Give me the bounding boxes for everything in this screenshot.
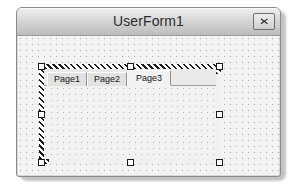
- close-x-icon: ✕: [259, 17, 269, 27]
- window-title: UserForm1: [17, 12, 280, 30]
- resize-handle-bottom-left[interactable]: [38, 159, 45, 166]
- userform-window: UserForm1 ✕ Page1 Page2 Page3: [16, 7, 281, 177]
- resize-handle-top-left[interactable]: [38, 63, 45, 70]
- tab-page1[interactable]: Page1: [47, 72, 87, 86]
- multipage-page-surface[interactable]: [44, 86, 216, 159]
- multipage-control-selection[interactable]: Page1 Page2 Page3: [39, 64, 221, 164]
- screenshot-root: UserForm1 ✕ Page1 Page2 Page3: [0, 0, 299, 188]
- tab-page3[interactable]: Page3: [127, 70, 171, 86]
- resize-handle-middle-left[interactable]: [38, 111, 45, 118]
- close-button[interactable]: ✕: [253, 13, 275, 30]
- titlebar-highlight: [18, 8, 279, 9]
- resize-handle-bottom-middle[interactable]: [127, 159, 134, 166]
- resize-handle-top-right[interactable]: [216, 63, 223, 70]
- resize-handle-bottom-right[interactable]: [216, 159, 223, 166]
- tab-page2[interactable]: Page2: [87, 72, 127, 86]
- multipage-tabstrip[interactable]: Page1 Page2 Page3: [44, 69, 216, 86]
- resize-handle-top-middle[interactable]: [127, 63, 134, 70]
- form-design-surface[interactable]: Page1 Page2 Page3: [18, 36, 279, 175]
- multipage-control[interactable]: Page1 Page2 Page3: [44, 69, 216, 159]
- resize-handle-middle-right[interactable]: [216, 111, 223, 118]
- window-titlebar[interactable]: UserForm1 ✕: [17, 8, 280, 36]
